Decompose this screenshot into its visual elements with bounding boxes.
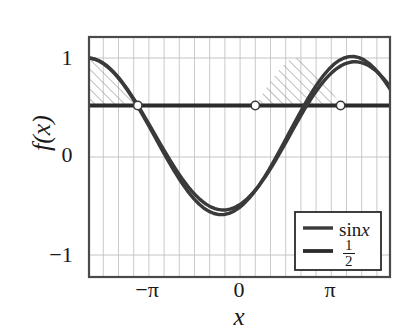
y-tick-label-neg1: −1 xyxy=(44,242,78,268)
legend-half-numerator: 1 xyxy=(343,238,355,254)
legend-label-half: 12 xyxy=(343,238,355,270)
x-tick-label-zero: 0 xyxy=(215,277,263,303)
intersection-marker xyxy=(336,101,344,109)
figure-container: f(x) x 1 0 −1 −π 0 π sinx 12 xyxy=(0,0,409,332)
legend-sin-variable: x xyxy=(361,219,369,240)
x-axis-label: x xyxy=(223,303,255,331)
legend-half-denominator: 2 xyxy=(343,254,355,269)
y-tick-label-0: 0 xyxy=(50,142,84,168)
x-tick-label-neg-pi: −π xyxy=(123,277,171,303)
intersection-marker xyxy=(134,101,142,109)
x-tick-label-pi: π xyxy=(306,277,354,303)
intersection-marker xyxy=(251,101,259,109)
y-tick-label-1: 1 xyxy=(50,45,84,71)
